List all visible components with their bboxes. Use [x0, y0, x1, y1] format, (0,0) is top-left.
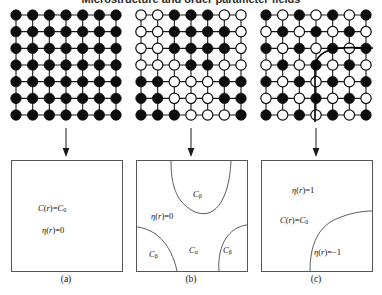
lattice-site-open — [236, 60, 246, 70]
lattice-site-open — [202, 93, 212, 103]
lattice-site-filled — [327, 76, 337, 86]
lattice-site-open — [152, 26, 162, 36]
lattice-site-filled — [77, 60, 87, 70]
lattice-site-open — [186, 93, 196, 103]
lattice-site-open — [344, 10, 354, 20]
lattice-site-open — [261, 93, 271, 103]
map-a: C(r)=C0η(r)=0 — [11, 160, 123, 272]
lattice-site-open — [219, 110, 229, 120]
lattice-site-filled — [11, 60, 21, 70]
lattice-site-open — [327, 26, 337, 36]
field-label: C(r)=C0 — [280, 215, 308, 225]
lattice-site-filled — [152, 93, 162, 103]
lattice-site-filled — [11, 43, 21, 53]
lattice-site-open — [277, 110, 287, 120]
lattice-site-filled — [361, 110, 371, 120]
lattice-site-filled — [27, 26, 37, 36]
lattice-site-filled — [11, 10, 21, 20]
lattice-site-open — [219, 60, 229, 70]
lattice-site-filled — [27, 93, 37, 103]
lattice-a — [9, 8, 123, 122]
lattice-site-filled — [61, 43, 71, 53]
lattice-site-filled — [136, 110, 146, 120]
lattice-site-filled — [77, 26, 87, 36]
field-label: η(r)=−1 — [314, 247, 341, 257]
lattice-site-filled — [277, 60, 287, 70]
lattice-site-filled — [261, 76, 271, 86]
lattice-site-filled — [61, 60, 71, 70]
lattice-site-filled — [111, 93, 121, 103]
lattice-site-open — [361, 93, 371, 103]
lattice-site-filled — [111, 26, 121, 36]
lattice-site-open — [169, 60, 179, 70]
lattice-site-open — [136, 60, 146, 70]
lattice-site-open — [344, 76, 354, 86]
lattice-site-open — [327, 60, 337, 70]
lattice-site-filled — [61, 10, 71, 20]
lattice-site-open — [294, 60, 304, 70]
lattice-site-filled — [261, 43, 271, 53]
lattice-site-filled — [202, 43, 212, 53]
figure-root: Microstructure and order parameter field… — [0, 0, 382, 295]
lattice-site-filled — [294, 76, 304, 86]
lattice-site-filled — [169, 26, 179, 36]
down-arrow-a — [4, 128, 128, 158]
field-label: η(r)=1 — [292, 185, 314, 195]
lattice-site-filled — [94, 93, 104, 103]
lattice-site-filled — [152, 76, 162, 86]
map-c: η(r)=1C(r)=C0η(r)=−1 — [261, 160, 373, 272]
lattice-site-filled — [294, 10, 304, 20]
caption-c: (c) — [254, 274, 378, 284]
lattice-b — [134, 8, 248, 122]
lattice-site-filled — [311, 93, 321, 103]
lattice-site-filled — [111, 60, 121, 70]
lattice-site-filled — [44, 76, 54, 86]
lattice-site-filled — [94, 76, 104, 86]
down-arrow-b — [129, 128, 253, 158]
lattice-site-filled — [77, 76, 87, 86]
lattice-site-filled — [327, 10, 337, 20]
lattice-site-open — [277, 76, 287, 86]
lattice-site-filled — [44, 26, 54, 36]
lattice-site-open — [186, 110, 196, 120]
lattice-site-filled — [277, 26, 287, 36]
lattice-site-filled — [261, 110, 271, 120]
lattice-site-open — [311, 110, 321, 120]
lattice-site-filled — [136, 93, 146, 103]
caption-b: (b) — [129, 274, 253, 284]
lattice-site-filled — [77, 93, 87, 103]
lattice-site-filled — [219, 26, 229, 36]
lattice-site-filled — [186, 60, 196, 70]
caption-a: (a) — [4, 274, 128, 284]
lattice-site-filled — [61, 93, 71, 103]
lattice-site-filled — [361, 76, 371, 86]
lattice-site-filled — [77, 10, 87, 20]
lattice-site-filled — [361, 10, 371, 20]
panel-b: Cβη(r)=0CβCαCβ (b) — [129, 0, 253, 295]
lattice-site-open — [202, 76, 212, 86]
lattice-site-filled — [27, 60, 37, 70]
lattice-site-filled — [111, 43, 121, 53]
lattice-site-filled — [236, 76, 246, 86]
lattice-site-filled — [186, 10, 196, 20]
lattice-site-open — [327, 93, 337, 103]
lattice-site-open — [311, 10, 321, 20]
lattice-site-filled — [27, 76, 37, 86]
lattice-site-filled — [344, 26, 354, 36]
lattice-site-open — [236, 43, 246, 53]
lattice-site-open — [202, 110, 212, 120]
lattice-site-filled — [61, 76, 71, 86]
lattice-site-filled — [344, 60, 354, 70]
lattice-site-filled — [169, 10, 179, 20]
lattice-site-open — [277, 43, 287, 53]
lattice-site-filled — [236, 93, 246, 103]
lattice-site-filled — [44, 43, 54, 53]
lattice-site-filled — [136, 76, 146, 86]
lattice-site-filled — [202, 26, 212, 36]
lattice-site-open — [136, 43, 146, 53]
lattice-site-filled — [311, 26, 321, 36]
panel-a: C(r)=C0η(r)=0 (a) — [4, 0, 128, 295]
lattice-site-filled — [169, 43, 179, 53]
field-label: Cβ — [223, 245, 232, 255]
lattice-site-filled — [202, 60, 212, 70]
